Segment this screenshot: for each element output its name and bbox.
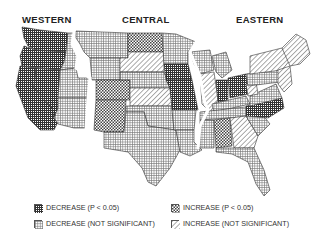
diagonal-swatch-icon [171,220,179,228]
state-indiana [216,80,228,102]
state-arizona [54,98,88,128]
dense-grid-swatch-icon [34,204,42,212]
state-alabama [214,118,232,148]
state-nj-md-de [278,66,292,92]
legend-label: INCREASE (P < 0.05) [183,203,253,212]
legend-label: INCREASE (NOT SIGNIFICANT) [183,219,289,228]
legend-item-decrease-not-significant: DECREASE (NOT SIGNIFICANT) [34,219,155,228]
legend-label: DECREASE (P < 0.05) [46,203,119,212]
state-arkansas [172,110,196,130]
state-new-mexico [94,100,126,132]
state-iowa [164,64,192,80]
light-grid-swatch-icon [34,220,42,228]
state-michigan [212,52,232,78]
state-kansas [130,88,172,106]
state-colorado [96,80,130,100]
legend-item-increase-significant: INCREASE (P < 0.05) [171,203,253,212]
state-florida [216,148,270,196]
state-ohio [228,74,248,98]
legend-item-decrease-significant: DECREASE (P < 0.05) [34,203,119,212]
legend-label: DECREASE (NOT SIGNIFICANT) [46,219,155,228]
state-utah [58,68,90,98]
state-north-dakota [128,33,164,52]
legend-item-increase-not-significant: INCREASE (NOT SIGNIFICANT) [171,219,289,228]
state-wyoming [90,58,120,80]
state-montana [76,31,128,58]
checker-swatch-icon [171,204,179,212]
